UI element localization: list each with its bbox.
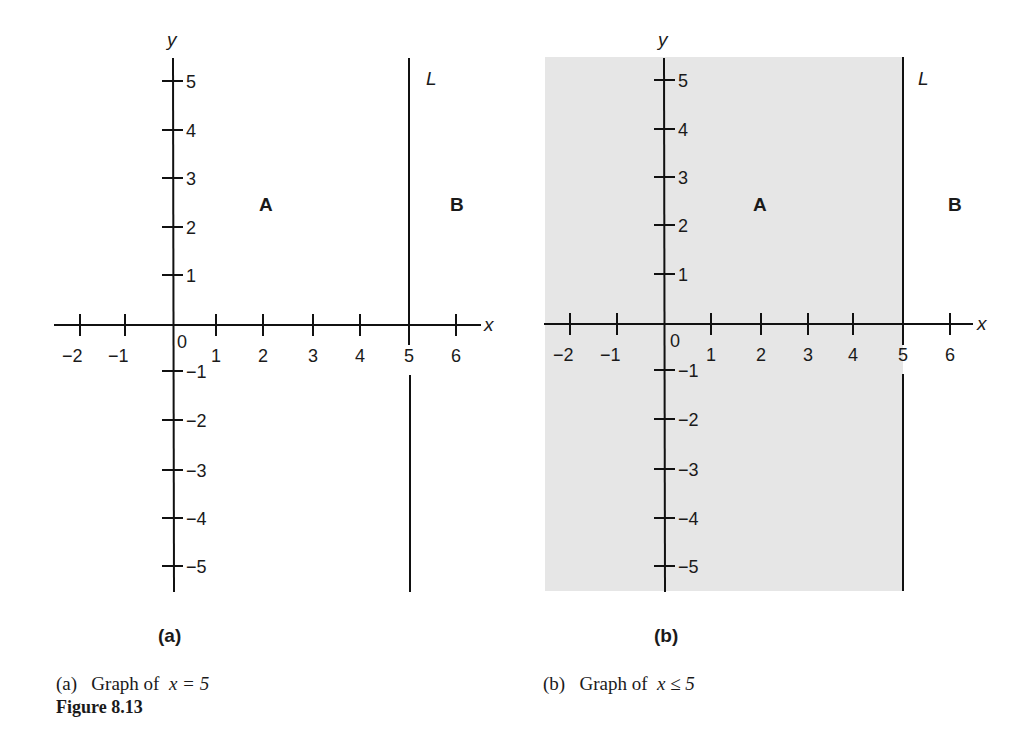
svg-text:5: 5 xyxy=(898,345,908,365)
region-A-label: A xyxy=(259,194,273,215)
svg-text:1: 1 xyxy=(186,266,196,286)
svg-text:−2: −2 xyxy=(62,346,83,366)
svg-text:2: 2 xyxy=(186,218,196,238)
svg-text:−3: −3 xyxy=(678,460,699,480)
svg-text:5: 5 xyxy=(404,346,414,366)
origin-label: 0 xyxy=(670,331,680,351)
svg-text:−4: −4 xyxy=(678,509,699,529)
svg-text:3: 3 xyxy=(678,168,688,188)
caption-a: (a) Graph of x = 5 xyxy=(56,673,209,695)
svg-text:3: 3 xyxy=(803,345,813,365)
svg-text:4: 4 xyxy=(355,346,365,366)
svg-text:−5: −5 xyxy=(678,557,699,577)
panel-b-label: (b) xyxy=(654,625,678,646)
svg-text:−1: −1 xyxy=(600,345,621,365)
figure-canvas: y x L A B −2 −1 0 1 2 3 4 5 xyxy=(0,0,1033,729)
figure-title: Figure 8.13 xyxy=(56,697,143,718)
x-axis-label: x xyxy=(976,313,988,334)
svg-text:−4: −4 xyxy=(186,509,207,529)
svg-text:6: 6 xyxy=(451,346,461,366)
x-axis-label: x xyxy=(483,314,495,335)
svg-text:2: 2 xyxy=(756,345,766,365)
caption-a-math: x = 5 xyxy=(169,673,209,694)
svg-text:4: 4 xyxy=(848,345,858,365)
y-axis-label: y xyxy=(656,29,669,50)
svg-text:4: 4 xyxy=(678,120,688,140)
line-L-label: L xyxy=(918,68,929,89)
svg-text:1: 1 xyxy=(211,346,221,366)
caption-a-text: Graph of xyxy=(91,673,159,694)
caption-b-text: Graph of xyxy=(579,673,647,694)
svg-text:−5: −5 xyxy=(186,557,207,577)
region-B-label: B xyxy=(450,194,464,215)
panel-b: y x L A B −2 −1 0 1 2 3 4 5 xyxy=(544,29,988,646)
svg-text:5: 5 xyxy=(678,71,688,91)
svg-text:−3: −3 xyxy=(186,461,207,481)
svg-text:6: 6 xyxy=(945,345,955,365)
svg-text:4: 4 xyxy=(186,121,196,141)
origin-label: 0 xyxy=(177,332,187,352)
y-axis-label: y xyxy=(165,29,178,50)
x-tick-labels: −2 −1 0 1 2 3 4 5 6 xyxy=(62,332,461,366)
region-B-label: B xyxy=(948,194,962,215)
svg-text:−2: −2 xyxy=(186,411,207,431)
svg-text:−1: −1 xyxy=(678,361,699,381)
svg-text:−2: −2 xyxy=(553,345,574,365)
caption-b-math: x ≤ 5 xyxy=(657,673,695,694)
svg-text:2: 2 xyxy=(678,216,688,236)
svg-text:−2: −2 xyxy=(678,410,699,430)
svg-text:2: 2 xyxy=(258,346,268,366)
svg-text:−1: −1 xyxy=(108,346,129,366)
panel-a: y x L A B −2 −1 0 1 2 3 4 5 xyxy=(54,29,495,646)
svg-text:1: 1 xyxy=(678,265,688,285)
panel-a-label: (a) xyxy=(158,625,181,646)
svg-text:−1: −1 xyxy=(186,362,207,382)
svg-text:3: 3 xyxy=(186,169,196,189)
caption-b: (b) Graph of x ≤ 5 xyxy=(543,673,695,695)
svg-text:1: 1 xyxy=(706,345,716,365)
region-A-label: A xyxy=(753,194,767,215)
caption-b-prefix: (b) xyxy=(543,673,565,694)
line-L-label: L xyxy=(426,68,437,89)
svg-text:3: 3 xyxy=(308,346,318,366)
svg-text:5: 5 xyxy=(186,72,196,92)
caption-a-prefix: (a) xyxy=(56,673,77,694)
